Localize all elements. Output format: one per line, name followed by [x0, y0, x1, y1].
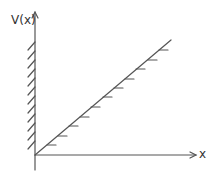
y-axis-label: V(x) — [11, 14, 36, 26]
x-axis-label: x — [199, 148, 206, 160]
wall-hatching — [28, 42, 35, 149]
ramp-hatching — [47, 50, 168, 145]
